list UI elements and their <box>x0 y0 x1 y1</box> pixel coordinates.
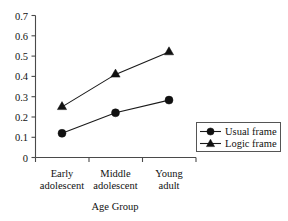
x-axis-category-labels: Early adolescent Middle adolescent Young… <box>40 168 184 191</box>
y-tick-label-0.3: 0.3 <box>15 92 28 103</box>
y-tick-label-0: 0 <box>23 153 28 164</box>
chart-legend: Usual frame Logic frame <box>197 123 281 152</box>
x-label-middle-line2: adolescent <box>93 180 137 191</box>
y-tick-label-0.4: 0.4 <box>15 71 29 82</box>
data-point-usual-young <box>165 96 173 104</box>
y-tick-label-0.5: 0.5 <box>15 51 28 62</box>
series-logic-frame <box>57 47 173 110</box>
y-tick-label-0.7: 0.7 <box>15 11 28 22</box>
y-tick-label-0.2: 0.2 <box>15 112 28 123</box>
data-point-usual-early <box>58 129 66 137</box>
x-axis-ticks <box>36 158 197 163</box>
y-axis-ticks <box>32 16 36 158</box>
line-chart: 0.7 0.6 0.5 0.4 0.3 0.2 0.1 0 <box>0 0 288 221</box>
data-point-usual-middle <box>112 109 120 117</box>
legend-label-logic: Logic frame <box>225 138 277 149</box>
x-axis-title: Age Group <box>92 201 139 212</box>
y-axis-tick-labels: 0.7 0.6 0.5 0.4 0.3 0.2 0.1 0 <box>15 11 29 164</box>
x-label-early-line2: adolescent <box>40 180 84 191</box>
chart-canvas: 0.7 0.6 0.5 0.4 0.3 0.2 0.1 0 <box>0 0 288 221</box>
data-point-logic-young <box>164 47 173 55</box>
y-tick-label-0.1: 0.1 <box>15 132 28 143</box>
x-label-middle-line1: Middle <box>100 168 131 179</box>
x-label-early-line1: Early <box>51 168 74 179</box>
x-label-young-line2: adult <box>159 180 180 191</box>
series-logic-frame-line <box>62 52 169 107</box>
circle-marker-icon <box>207 128 214 135</box>
data-point-logic-early <box>57 102 66 110</box>
y-tick-label-0.6: 0.6 <box>15 31 28 42</box>
x-label-young-line1: Young <box>155 168 183 179</box>
series-usual-frame <box>58 96 173 137</box>
legend-label-usual: Usual frame <box>225 126 277 137</box>
